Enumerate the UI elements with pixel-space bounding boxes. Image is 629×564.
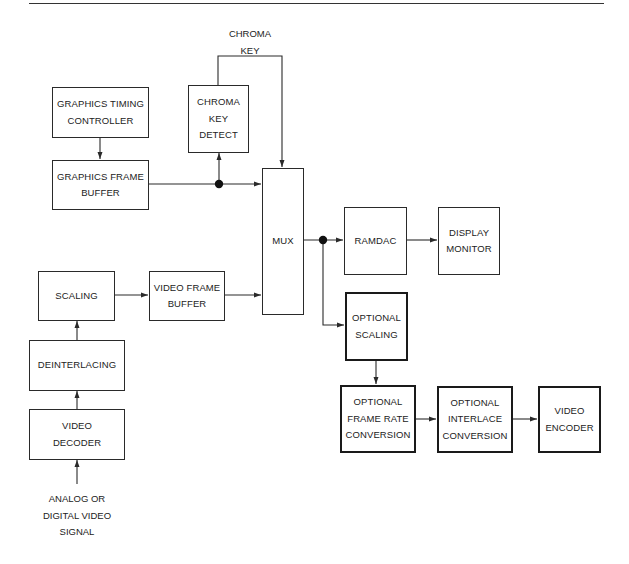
block-label-line: CONTROLLER <box>68 113 134 130</box>
label-line: CHROMA <box>220 26 280 43</box>
block-label-line: SCALING <box>55 288 97 305</box>
chroma-key-detect-block: CHROMA KEY DETECT <box>188 85 249 153</box>
video-frame-buffer-block: VIDEO FRAME BUFFER <box>149 271 225 321</box>
block-label-line: CONVERSION <box>443 428 508 445</box>
mux-block: MUX <box>262 168 304 315</box>
block-label-line: VIDEO <box>62 418 92 435</box>
block-label-line: VIDEO FRAME <box>154 280 221 297</box>
graphics-timing-controller-block: GRAPHICS TIMING CONTROLLER <box>52 87 149 138</box>
block-label-line: BUFFER <box>168 296 207 313</box>
block-label-line: MUX <box>272 233 293 250</box>
block-label-line: SCALING <box>355 327 397 344</box>
graphics-frame-buffer-block: GRAPHICS FRAME BUFFER <box>52 160 149 210</box>
block-label-line: BUFFER <box>81 185 120 202</box>
block-label-line: OPTIONAL <box>451 395 500 412</box>
junction-output-dot <box>319 236 327 244</box>
ramdac-block: RAMDAC <box>344 207 407 275</box>
label-line: ANALOG OR <box>27 491 127 508</box>
video-input-signal-label: ANALOG OR DIGITAL VIDEO SIGNAL <box>27 491 127 541</box>
block-label-line: CHROMA <box>197 94 240 111</box>
deinterlacing-block: DEINTERLACING <box>29 340 125 391</box>
block-label-line: CONVERSION <box>346 427 411 444</box>
block-label-line: VIDEO <box>554 403 584 420</box>
video-encoder-block: VIDEO ENCODER <box>538 386 601 453</box>
block-label-line: GRAPHICS FRAME <box>57 169 144 186</box>
block-label-line: MONITOR <box>446 241 491 258</box>
display-monitor-block: DISPLAY MONITOR <box>438 207 500 275</box>
block-label-line: GRAPHICS TIMING <box>57 96 144 113</box>
label-line: SIGNAL <box>27 524 127 541</box>
block-label-line: OPTIONAL <box>352 310 401 327</box>
optional-scaling-block: OPTIONAL SCALING <box>345 292 408 361</box>
block-label-line: ENCODER <box>545 420 593 437</box>
block-label-line: DEINTERLACING <box>38 357 116 374</box>
chroma-key-signal-label: CHROMA KEY <box>220 26 280 59</box>
block-label-line: OPTIONAL <box>354 394 403 411</box>
label-line: KEY <box>220 43 280 60</box>
block-label-line: DISPLAY <box>449 225 489 242</box>
video-graphics-block-diagram: GRAPHICS TIMING CONTROLLER GRAPHICS FRAM… <box>0 0 629 564</box>
block-label-line: RAMDAC <box>355 233 397 250</box>
arrow-junction-to-optional-scaling <box>323 240 344 325</box>
label-line: DIGITAL VIDEO <box>27 508 127 525</box>
video-decoder-block: VIDEO DECODER <box>29 409 125 460</box>
scaling-block: SCALING <box>38 271 115 321</box>
junction-graphics-dot <box>215 180 223 188</box>
block-label-line: DECODER <box>53 435 101 452</box>
block-label-line: DETECT <box>199 127 238 144</box>
optional-frame-rate-conversion-block: OPTIONAL FRAME RATE CONVERSION <box>340 385 416 453</box>
optional-interlace-conversion-block: OPTIONAL INTERLACE CONVERSION <box>437 386 513 453</box>
block-label-line: INTERLACE <box>448 411 502 428</box>
block-label-line: KEY <box>209 111 228 128</box>
block-label-line: FRAME RATE <box>347 411 409 428</box>
